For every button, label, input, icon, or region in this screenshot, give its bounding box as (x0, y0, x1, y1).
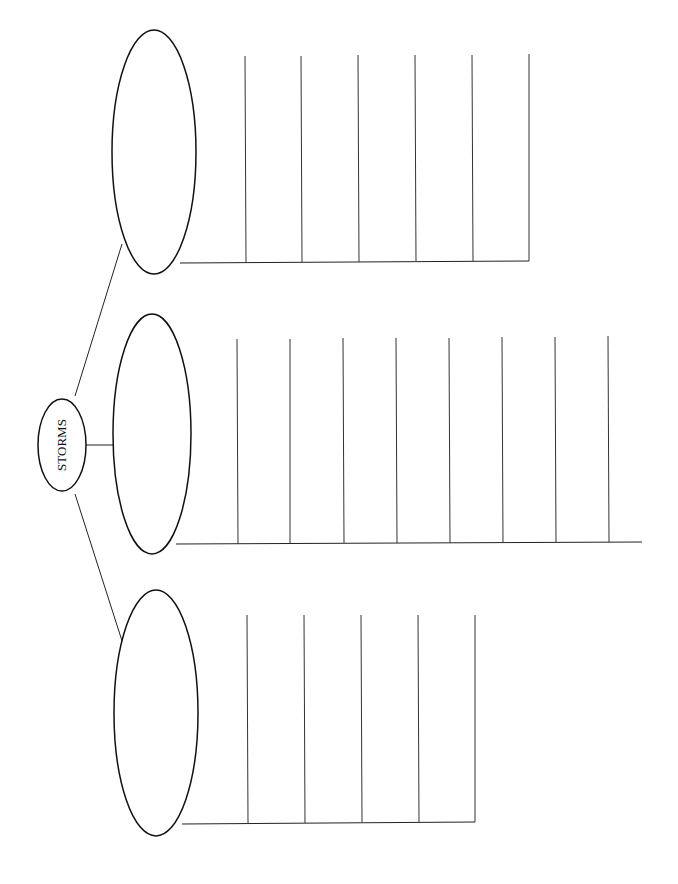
branch-bottom-lines (247, 615, 475, 823)
branch-top (112, 30, 529, 274)
branch-middle-lines (237, 336, 609, 544)
branch-middle-oval[interactable] (113, 314, 191, 554)
connector-top (75, 244, 122, 396)
center-label: STORMS (54, 419, 69, 471)
branch-bottom (114, 590, 475, 836)
storms-diagram: STORMS (0, 0, 678, 884)
branch-top-oval[interactable] (112, 30, 196, 274)
branch-middle (113, 314, 642, 554)
center-node: STORMS (38, 399, 86, 491)
branch-top-lines (245, 54, 529, 262)
worksheet-page: STORMS (0, 0, 678, 884)
branch-bottom-oval[interactable] (114, 590, 198, 836)
connector-bottom (75, 494, 123, 644)
